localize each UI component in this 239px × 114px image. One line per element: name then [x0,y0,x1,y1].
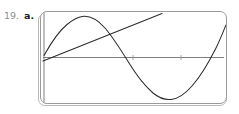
exercise-label: 19. a. [4,10,34,21]
exercise-number: 19. [4,10,19,21]
straight-line [43,14,162,62]
graph-plot [41,12,226,103]
exercise-part-letter: a. [24,10,34,21]
calculator-screen [40,11,227,104]
exercise-figure: 19. a. [0,0,239,114]
